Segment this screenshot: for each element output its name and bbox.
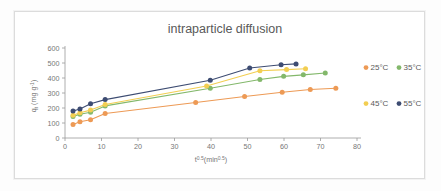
x-axis-tick-label: 0 [63,142,67,151]
data-point [323,71,328,76]
data-point [279,62,284,67]
series-25C [71,86,339,127]
x-axis-tick-label: 40 [207,142,215,151]
legend-label: 55°C [404,99,422,108]
legend-item-25C[interactable]: 25°C [364,63,389,72]
legend-label: 25°C [371,63,389,72]
y-axis-title-unit-close: ) [29,80,38,82]
x-axis: 01020304050607080 [63,138,361,151]
data-point [103,111,108,116]
x-axis-tick-label: 60 [280,142,288,151]
data-point [303,66,308,71]
data-point [301,72,306,77]
x-axis-title-unit-base: (min [204,155,218,164]
x-axis-tick-label: 80 [353,142,361,151]
legend-marker [364,101,369,106]
data-point [257,68,262,73]
data-point [77,107,82,112]
data-point [208,78,213,83]
x-axis-tick-label: 30 [171,142,179,151]
y-axis-title-unit: (mg g [29,87,38,107]
data-point [204,83,209,88]
y-axis-tick-label: 400 [48,74,60,83]
data-point [103,102,108,107]
y-axis-tick-label: 300 [48,89,60,98]
chart-title: intraparticle diffusion [168,22,282,36]
x-axis-title: t0.5(min0.5) [195,155,227,164]
y-axis-title: qt (mg g-1) [29,80,39,113]
chart-figure: intraparticle diffusion 0100200300400500… [0,0,441,191]
x-axis-tick-label: 20 [134,142,142,151]
x-axis-title-unit-close: ) [225,155,227,164]
series-line [73,88,336,124]
data-series-group [71,61,339,127]
x-axis-tick-label: 10 [98,142,106,151]
svg-text:qt (mg g-1): qt (mg g-1) [29,80,39,113]
data-point [77,119,82,124]
legend-label: 45°C [371,99,389,108]
chart-legend: 25°C35°C45°C55°C [364,63,422,108]
data-point [284,67,289,72]
data-point [88,101,93,106]
legend-item-55C[interactable]: 55°C [397,99,422,108]
x-axis-tick-label: 50 [244,142,252,151]
legend-marker [397,65,402,70]
y-axis-tick-label: 100 [48,119,60,128]
y-axis-tick-label: 0 [56,134,60,143]
x-axis-tick-label: 70 [317,142,325,151]
data-point [333,86,338,91]
data-point [294,61,299,66]
data-point [71,122,76,127]
intraparticle-diffusion-chart: intraparticle diffusion 0100200300400500… [0,0,441,191]
data-point [193,100,198,105]
y-axis: 0100200300400500600 [48,44,66,143]
y-axis-tick-label: 600 [48,44,60,53]
y-axis-tick-label: 200 [48,104,60,113]
data-point [88,117,93,122]
legend-item-45C[interactable]: 45°C [364,99,389,108]
data-point [88,108,93,113]
data-point [280,90,285,95]
series-line [73,73,325,117]
legend-label: 35°C [404,63,422,72]
series-35C [71,71,328,120]
legend-marker [397,101,402,106]
y-axis-tick-label: 500 [48,59,60,68]
data-point [257,77,262,82]
data-point [242,94,247,99]
data-point [281,74,286,79]
svg-text:t0.5(min0.5): t0.5(min0.5) [195,155,227,164]
data-point [308,87,313,92]
data-point [247,65,252,70]
legend-marker [364,65,369,70]
data-point [71,109,76,114]
legend-item-35C[interactable]: 35°C [397,63,422,72]
data-point [103,97,108,102]
